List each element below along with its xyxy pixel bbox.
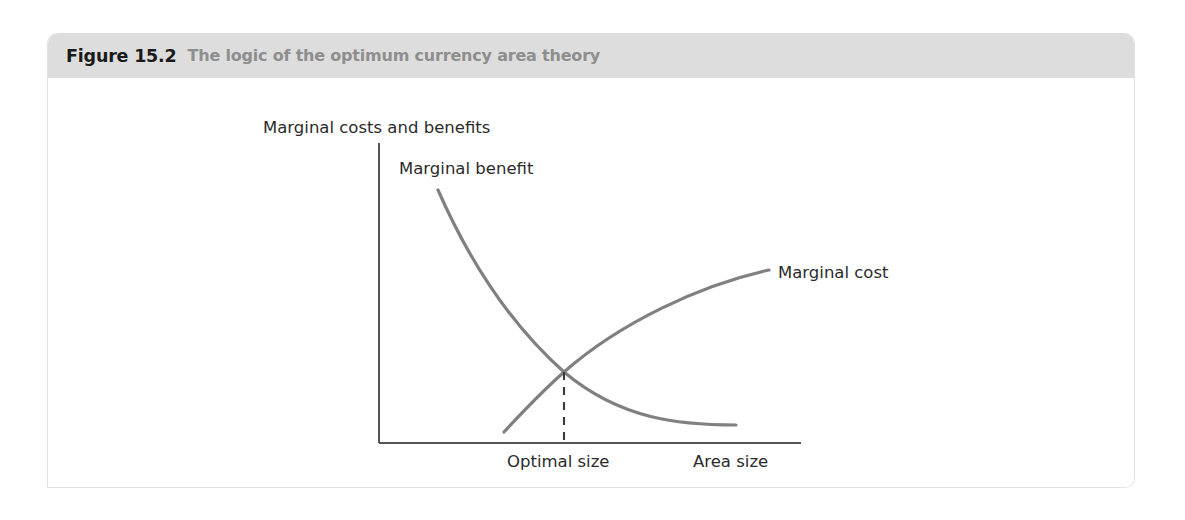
marginal-benefit-label: Marginal benefit [399, 159, 534, 178]
y-axis-title: Marginal costs and benefits [263, 118, 490, 137]
marginal-cost-label: Marginal cost [778, 263, 889, 282]
figure-number: Figure 15.2 [66, 46, 177, 66]
figure-header: Figure 15.2 The logic of the optimum cur… [48, 33, 1134, 78]
optimal-size-label: Optimal size [507, 452, 610, 471]
figure-body: Marginal costs and benefits Marginal ben… [48, 78, 1134, 488]
marginal-benefit-curve [438, 190, 736, 425]
optimum-currency-area-chart: Marginal costs and benefits Marginal ben… [48, 78, 1135, 488]
figure-card: Figure 15.2 The logic of the optimum cur… [47, 33, 1135, 488]
figure-caption: The logic of the optimum currency area t… [188, 46, 601, 65]
area-size-label: Area size [693, 452, 768, 471]
